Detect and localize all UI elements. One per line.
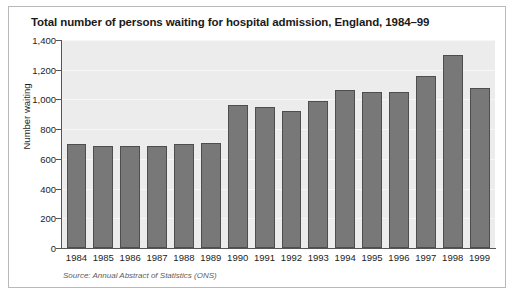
y-axis-tick-mark — [56, 70, 61, 71]
bar-slot — [117, 40, 144, 248]
y-axis-tick-label: 200 — [12, 213, 56, 224]
bar-slot — [439, 40, 466, 248]
bar — [335, 90, 355, 248]
bar-slot — [197, 40, 224, 248]
bar — [120, 146, 140, 249]
bar — [282, 111, 302, 248]
x-axis-tick-label: 1997 — [412, 252, 439, 263]
bar — [308, 101, 328, 248]
y-axis-tick-label: 1,200 — [12, 64, 56, 75]
y-axis-tick-label: 600 — [12, 153, 56, 164]
y-axis-tick-mark — [56, 40, 61, 41]
bar — [389, 92, 409, 248]
bar-slot — [466, 40, 493, 248]
y-axis-tick-mark — [56, 218, 61, 219]
x-axis-line — [61, 248, 496, 249]
bar-slot — [278, 40, 305, 248]
bar-slot — [251, 40, 278, 248]
x-axis-tick-label: 1994 — [332, 252, 359, 263]
x-axis-tick-label: 1998 — [439, 252, 466, 263]
x-axis-tick-label: 1985 — [90, 252, 117, 263]
x-axis-tick-label: 1999 — [466, 252, 493, 263]
y-axis-tick-labels: 02004006008001,0001,2001,400 — [9, 7, 56, 289]
y-axis-tick-mark — [56, 248, 61, 249]
bar — [93, 146, 113, 249]
bar-slot — [171, 40, 198, 248]
bar — [362, 92, 382, 248]
bar-slot — [63, 40, 90, 248]
chart-figure: Total number of persons waiting for hosp… — [8, 6, 506, 288]
bar-slot — [386, 40, 413, 248]
y-axis-tick-mark — [56, 129, 61, 130]
y-axis-tick-mark — [56, 189, 61, 190]
bar — [470, 88, 490, 248]
x-axis-tick-label: 1993 — [305, 252, 332, 263]
y-axis-title: Number waiting — [21, 72, 32, 162]
bar — [174, 144, 194, 248]
y-axis-tick-mark — [56, 99, 61, 100]
bar-slot — [332, 40, 359, 248]
y-axis-tick-label: 1,400 — [12, 35, 56, 46]
bar-slot — [412, 40, 439, 248]
x-axis-tick-label: 1987 — [144, 252, 171, 263]
bar-slot — [224, 40, 251, 248]
x-axis-tick-label: 1991 — [251, 252, 278, 263]
y-axis-tick-label: 0 — [12, 243, 56, 254]
bar — [67, 144, 87, 248]
bar-slot — [305, 40, 332, 248]
x-axis-tick-labels: 1984198519861987198819891990199119921993… — [61, 252, 495, 263]
bar-slot — [90, 40, 117, 248]
chart-title: Total number of persons waiting for hosp… — [31, 16, 491, 28]
x-axis-tick-label: 1995 — [359, 252, 386, 263]
x-axis-tick-label: 1986 — [117, 252, 144, 263]
plot-area — [61, 40, 495, 248]
y-axis-tick-mark — [56, 159, 61, 160]
y-axis-tick-label: 800 — [12, 124, 56, 135]
x-axis-tick-label: 1984 — [63, 252, 90, 263]
bar — [416, 76, 436, 248]
bar-slot — [359, 40, 386, 248]
bar — [201, 143, 221, 248]
source-note: Source: Annual Abstract of Statistics (O… — [63, 271, 217, 280]
bar — [228, 105, 248, 248]
bar — [443, 55, 463, 248]
bar — [147, 146, 167, 249]
y-axis-tick-label: 400 — [12, 183, 56, 194]
y-axis-line — [61, 40, 62, 249]
x-axis-tick-label: 1989 — [197, 252, 224, 263]
x-axis-tick-label: 1992 — [278, 252, 305, 263]
x-axis-tick-label: 1996 — [386, 252, 413, 263]
bar-series — [61, 40, 495, 248]
x-axis-tick-label: 1990 — [224, 252, 251, 263]
bar — [255, 107, 275, 248]
y-axis-tick-label: 1,000 — [12, 94, 56, 105]
bar-slot — [144, 40, 171, 248]
x-axis-tick-label: 1988 — [171, 252, 198, 263]
